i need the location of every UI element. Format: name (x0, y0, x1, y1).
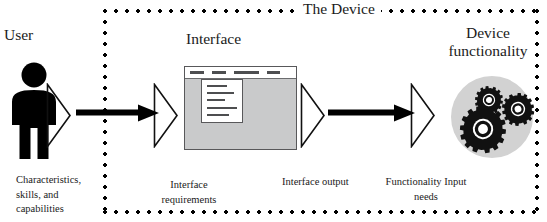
menu-tab (234, 71, 259, 74)
window-body (185, 79, 296, 149)
dropdown-item (207, 85, 227, 87)
boundary-edge-bottom (103, 210, 539, 214)
dropdown-item (207, 114, 229, 116)
heading-interface: Interface (186, 30, 241, 48)
window-menubar (185, 67, 296, 79)
funnel-triangle-icon-interface-out (300, 83, 326, 152)
heading-device-functionality-line1: Device (432, 24, 544, 42)
interface-window-icon (184, 66, 297, 150)
caption-interface-output: Interface output (282, 175, 352, 190)
heading-device-functionality-line2: functionality (432, 42, 544, 60)
right-arrow-icon-interface-to-functionality (328, 104, 416, 126)
dropdown-item (207, 92, 234, 94)
menu-tab (212, 71, 226, 74)
right-arrow-icon-user-to-interface (76, 104, 160, 126)
menu-tab (190, 71, 204, 74)
diagram-canvas: The Device User Interface Device functio… (0, 0, 547, 222)
caption-user-attributes: Characteristics, skills, and capabilitie… (16, 173, 108, 217)
funnel-triangle-icon-user (46, 83, 72, 152)
gears-icon (447, 76, 537, 162)
caption-functionality-input-needs: Functionality Input needs (380, 175, 472, 204)
window-dropdown-menu (201, 79, 243, 123)
menu-tab (267, 71, 280, 74)
device-boundary-title: The Device (297, 0, 381, 18)
heading-device-functionality: Device functionality (432, 24, 544, 60)
dropdown-item (207, 99, 225, 101)
dropdown-item (207, 107, 237, 109)
heading-user: User (4, 26, 33, 44)
caption-interface-requirements: Interface requirements (150, 178, 228, 207)
